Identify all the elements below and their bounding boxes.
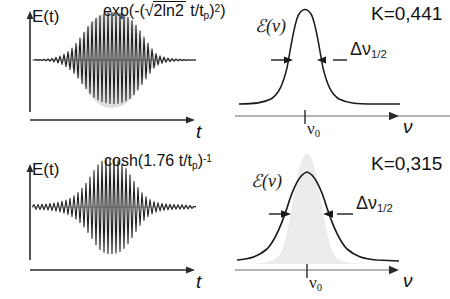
sech-envelope-formula: cosh(1.76 t/tp)-1: [104, 153, 212, 171]
gaussian-envelope-formula: exp(-(√2ln2 t/tp)2): [103, 3, 225, 21]
gaussian-time-bandwidth-product: K=0,441: [371, 4, 442, 23]
center-frequency-symbol: ν: [309, 273, 317, 292]
gaussian-spectrum-panel: ℰ(ν) ν ν0 Δν1/2 K=0,441: [225, 0, 450, 150]
fwhm-symbol: Δν: [356, 193, 377, 213]
gaussian-time-x-axis-arrowhead: [186, 116, 195, 123]
sech-time-y-axis-label: E(t): [32, 161, 59, 178]
sech-spectrum-y-axis-label: ℰ(ν): [251, 172, 282, 190]
gaussian-time-y-axis-label: E(t): [32, 8, 59, 25]
sech-fwhm-left-arrow: [269, 210, 291, 218]
sech-time-x-axis-arrowhead: [186, 266, 195, 273]
center-frequency-symbol: ν: [307, 119, 315, 138]
fwhm-sub: 1/2: [371, 48, 387, 60]
gaussian-center-frequency-label: ν0: [307, 120, 320, 139]
sech-time-panel: E(t) t cosh(1.76 t/tp)-1: [0, 150, 225, 299]
fwhm-symbol: Δν: [350, 39, 371, 59]
sech-spectrum-panel: ℰ(ν) ν ν0 Δν1/2 K=0,315: [225, 150, 450, 299]
formula-exponent: -1: [203, 153, 212, 164]
fwhm-sub: 1/2: [377, 202, 393, 214]
sech-time-bandwidth-product: K=0,315: [371, 154, 442, 173]
formula-prefix: exp(-(: [103, 2, 145, 19]
gaussian-spectrum-x-axis-label: ν: [403, 117, 413, 136]
sech-spectrum-x-axis-label: ν: [403, 271, 413, 290]
formula-body: t/t: [186, 2, 204, 19]
gaussian-time-x-axis-label: t: [196, 122, 201, 141]
sech-spectrum-x-axis-arrowhead: [389, 266, 399, 274]
sech-center-frequency-label: ν0: [309, 274, 322, 293]
center-frequency-sub: 0: [317, 281, 322, 293]
gaussian-time-panel: E(t) t exp(-(√2ln2 t/tp)2): [0, 0, 225, 150]
gaussian-fwhm-label: Δν1/2: [350, 40, 387, 61]
formula-prefix: cosh(1.76 t/t: [104, 152, 192, 169]
sqrt-radicand: 2ln2: [153, 1, 186, 19]
sech-fwhm-label: Δν1/2: [356, 194, 393, 215]
gaussian-spectrum-x-axis-arrowhead: [389, 112, 399, 120]
gaussian-spectrum-y-axis-label: ℰ(ν): [255, 17, 286, 35]
center-frequency-sub: 0: [315, 127, 320, 139]
sech-time-x-axis-label: t: [196, 272, 201, 291]
